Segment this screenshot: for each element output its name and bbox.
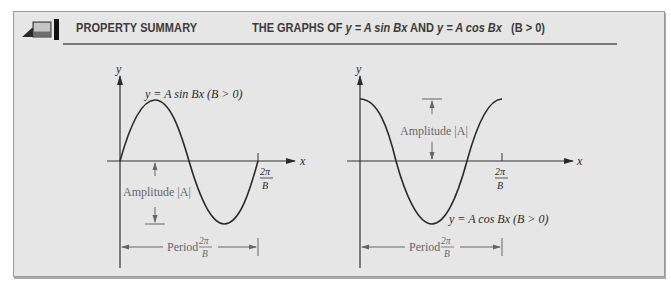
sine-x-label: x [299,154,306,168]
sine-y-label: y [115,62,122,76]
sine-period-label: Period [167,240,198,254]
cosine-period-den: B [444,249,450,259]
cosine-graph: y x 2π B y = A cos Bx (B > 0) Amplitude … [347,62,583,268]
cosine-curve-label: y = A cos Bx (B > 0) [448,212,548,226]
sine-tick-den: B [262,180,268,191]
cosine-x-label: x [576,154,583,168]
graphs-figure: y x y = A sin Bx (B > 0) 2π B Amplitude … [0,0,671,284]
sine-curve [120,100,258,224]
cosine-amplitude-label: Amplitude |A| [400,124,468,138]
sine-period-num: 2π [199,236,209,246]
sine-curve-label: y = A sin Bx (B > 0) [144,87,242,101]
cosine-y-label: y [355,62,362,76]
cosine-period-label: Period [409,240,440,254]
sine-tick-num: 2π [260,166,271,177]
sine-graph: y x y = A sin Bx (B > 0) 2π B Amplitude … [107,62,306,268]
sine-period-den: B [202,249,208,259]
cosine-tick-den: B [497,180,503,191]
sine-amplitude-label: Amplitude |A| [123,185,191,199]
cosine-tick-num: 2π [495,166,506,177]
cosine-period-num: 2π [441,236,451,246]
